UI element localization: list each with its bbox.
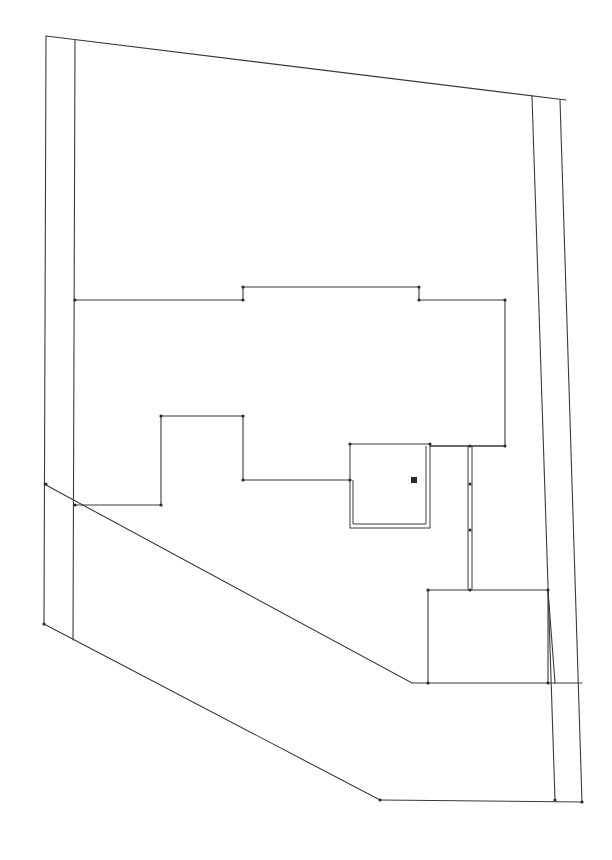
vertex-dot bbox=[426, 681, 429, 684]
vertex-dot bbox=[580, 800, 583, 803]
vertex-dot bbox=[417, 298, 420, 301]
property-left-outer bbox=[44, 36, 46, 624]
building-lower-outline bbox=[75, 416, 350, 505]
property-top-edge bbox=[46, 36, 566, 100]
vertex-dot bbox=[503, 298, 506, 301]
vertex-dot bbox=[417, 285, 420, 288]
vertex-dot bbox=[241, 478, 244, 481]
vertex-dot bbox=[546, 588, 549, 591]
setback-diagonal bbox=[44, 484, 582, 683]
vertex-dot bbox=[73, 298, 76, 301]
double-walls bbox=[350, 444, 505, 590]
vertex-dot bbox=[241, 298, 244, 301]
vertex-dot bbox=[468, 588, 471, 591]
center-mark-icon bbox=[411, 477, 417, 483]
property-bottom-diagonal bbox=[44, 624, 380, 800]
site-plan-drawing bbox=[0, 0, 612, 860]
property-bottom-edge bbox=[380, 800, 582, 802]
drawing-lines bbox=[44, 36, 582, 802]
vertex-dot bbox=[241, 285, 244, 288]
vertex-dot bbox=[428, 442, 431, 445]
vertex-dot bbox=[468, 482, 471, 485]
vertex-dot bbox=[348, 478, 351, 481]
vertex-dot bbox=[44, 482, 47, 485]
property-right-outer bbox=[560, 100, 582, 802]
building-upper-outline bbox=[75, 287, 505, 446]
property-right-inner bbox=[532, 96, 555, 800]
vertex-dot bbox=[348, 442, 351, 445]
vertex-dot bbox=[159, 503, 162, 506]
vertex-dot bbox=[159, 414, 162, 417]
vertex-markers bbox=[42, 285, 583, 803]
annex-right-diagonal bbox=[548, 590, 555, 683]
vertex-dot bbox=[503, 444, 506, 447]
vertex-dot bbox=[73, 503, 76, 506]
vertex-dot bbox=[241, 414, 244, 417]
vertex-dot bbox=[426, 588, 429, 591]
vertex-dot bbox=[553, 798, 556, 801]
vertex-dot bbox=[42, 622, 45, 625]
vertex-dot bbox=[378, 798, 381, 801]
vertex-dot bbox=[546, 681, 549, 684]
vertex-dot bbox=[468, 444, 471, 447]
garage-box-outer bbox=[350, 444, 430, 528]
property-left-inner bbox=[73, 40, 75, 640]
annex-outline bbox=[428, 590, 548, 683]
vertex-dot bbox=[468, 528, 471, 531]
